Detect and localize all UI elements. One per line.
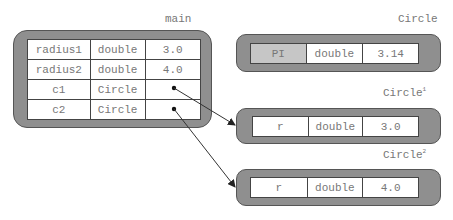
reference-arrows bbox=[0, 0, 453, 220]
